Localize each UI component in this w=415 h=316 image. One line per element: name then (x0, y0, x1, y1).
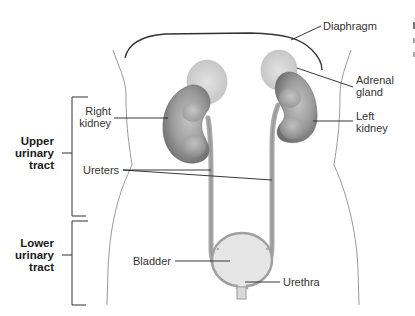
bracket-lower (72, 221, 88, 305)
label-right-kidney-line2: kidney (78, 117, 111, 129)
label-adrenal-gland: Adrenal gland (356, 74, 394, 98)
label-left-kidney-line1: Left (356, 110, 388, 122)
body-outline-left (107, 50, 132, 305)
label-diaphragm: Diaphragm (323, 20, 377, 32)
label-right-kidney: Right kidney (78, 105, 111, 129)
label-lower-line2: urinary (8, 249, 54, 261)
anatomy-illustration (0, 0, 415, 316)
label-adrenal-line2: gland (356, 86, 394, 98)
label-right-kidney-line1: Right (78, 105, 111, 117)
label-upper-line3: tract (8, 159, 54, 171)
urinary-tract-diagram: Diaphragm Adrenal gland Right kidney Lef… (0, 0, 415, 316)
label-adrenal-line1: Adrenal (356, 74, 394, 86)
label-lower-line1: Lower (8, 237, 54, 249)
label-upper-urinary-tract: Upper urinary tract (8, 135, 54, 171)
label-left-kidney: Left kidney (356, 110, 388, 134)
leader-diaphragm (291, 26, 321, 40)
label-urethra: Urethra (283, 276, 320, 288)
label-upper-line2: urinary (8, 147, 54, 159)
urethra (237, 287, 246, 299)
label-ureters: Ureters (83, 164, 119, 176)
bladder (212, 233, 272, 288)
label-left-kidney-line2: kidney (356, 122, 388, 134)
label-bladder: Bladder (133, 255, 171, 267)
label-upper-line1: Upper (8, 135, 54, 147)
label-lower-urinary-tract: Lower urinary tract (8, 237, 54, 273)
leader-ureters-left (123, 170, 272, 180)
label-lower-line3: tract (8, 261, 54, 273)
